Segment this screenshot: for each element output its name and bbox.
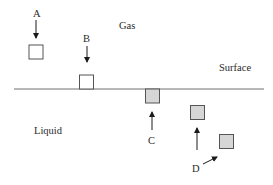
gas-liquid-surface-diagram: Gas Surface Liquid A B C D (0, 0, 273, 185)
surface-label: Surface (219, 62, 251, 73)
label-d: D (192, 163, 200, 174)
box-c (146, 89, 160, 103)
liquid-label: Liquid (34, 125, 63, 136)
arrow-d-diagonal-icon (203, 157, 217, 164)
box-d-upper (191, 106, 205, 120)
box-d-lower (220, 135, 234, 149)
label-b: B (83, 33, 90, 44)
gas-label: Gas (119, 20, 135, 31)
box-b (80, 75, 94, 89)
label-c: C (148, 135, 155, 146)
label-a: A (33, 8, 41, 19)
box-a (29, 45, 43, 59)
